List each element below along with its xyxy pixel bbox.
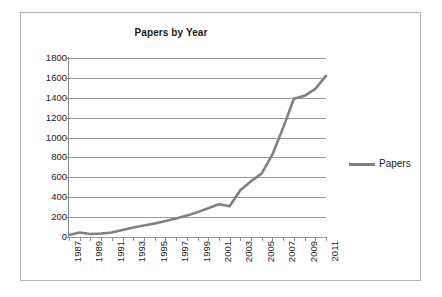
y-tick-label-1000: 1000 (23, 133, 67, 143)
chart-container: Papers by Year 1800160014001200100080060… (20, 12, 421, 281)
y-tick-mark-800 (65, 157, 69, 158)
x-tick-label-2007: 2007 (287, 241, 297, 262)
x-axis-tick-labels: 1987198919911993199519971999200120032005… (69, 241, 331, 281)
x-tick-label-2009: 2009 (309, 241, 319, 262)
y-tick-label-200: 200 (23, 212, 67, 222)
y-tick-mark-1400 (65, 98, 69, 99)
x-tick-label-1995: 1995 (159, 241, 169, 262)
y-tick-mark-1800 (65, 58, 69, 59)
plot-area (69, 58, 326, 237)
y-tick-label-1800: 1800 (23, 53, 67, 63)
x-tick-label-2005: 2005 (266, 241, 276, 262)
y-tick-mark-600 (65, 177, 69, 178)
y-tick-mark-1600 (65, 78, 69, 79)
legend-swatch-papers (349, 163, 375, 166)
legend-label-papers: Papers (379, 159, 411, 169)
x-tick-label-2011: 2011 (330, 241, 340, 261)
y-tick-mark-1200 (65, 118, 69, 119)
y-tick-label-0: 0 (23, 232, 67, 242)
y-tick-label-400: 400 (23, 192, 67, 202)
x-tick-label-2003: 2003 (244, 241, 254, 262)
y-tick-mark-200 (65, 217, 69, 218)
x-tick-label-2001: 2001 (223, 241, 233, 262)
x-tick-label-1999: 1999 (202, 241, 212, 262)
y-tick-label-800: 800 (23, 152, 67, 162)
series-line-papers (69, 58, 326, 237)
y-tick-label-600: 600 (23, 172, 67, 182)
y-tick-mark-400 (65, 197, 69, 198)
y-tick-label-1200: 1200 (23, 113, 67, 123)
x-tick-label-1987: 1987 (73, 241, 83, 262)
chart-legend: Papers (349, 159, 411, 169)
y-tick-label-1400: 1400 (23, 93, 67, 103)
x-tick-label-1993: 1993 (137, 241, 147, 262)
y-tick-mark-1000 (65, 138, 69, 139)
y-tick-label-1600: 1600 (23, 73, 67, 83)
chart-title: Papers by Year (21, 27, 321, 38)
x-tick-label-1991: 1991 (116, 241, 126, 262)
y-axis-tick-labels: 180016001400120010008006004002000 (21, 58, 67, 237)
x-tick-label-1989: 1989 (94, 241, 104, 262)
x-tick-label-1997: 1997 (180, 241, 190, 262)
